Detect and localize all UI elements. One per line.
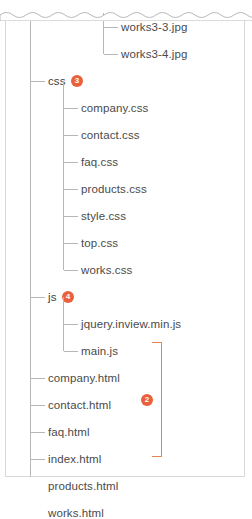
tree-node-products-html[interactable]: products.html xyxy=(48,480,118,492)
torn-edge-wave xyxy=(0,5,252,21)
tree-lines xyxy=(0,0,252,477)
tree-node-works-html[interactable]: works.html xyxy=(48,507,104,519)
